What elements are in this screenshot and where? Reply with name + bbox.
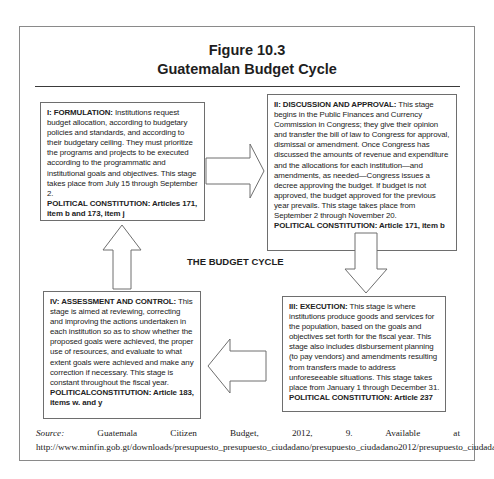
stage-constitution: POLITICAL CONSTITUTION: Articles 171, it… bbox=[47, 199, 197, 218]
stage-constitution: POLITICALCONSTITUTION: Article 183, item… bbox=[50, 388, 194, 407]
stage-heading: IV: ASSESSMENT AND CONTROL: bbox=[50, 297, 176, 306]
arrow-up-icon bbox=[102, 224, 142, 290]
stage-constitution: POLITICAL CONSTITUTION: Article 171, ite… bbox=[274, 221, 445, 230]
figure-number: Figure 10.3 bbox=[0, 42, 494, 58]
title-divider bbox=[35, 86, 460, 87]
source-citation: Source: Guatemala Citizen Budget, 2012, … bbox=[36, 426, 460, 454]
arrow-down-icon bbox=[344, 232, 388, 294]
stage-heading: I: FORMULATION: bbox=[47, 108, 113, 117]
stage-body: This stage is where institutions produce… bbox=[289, 302, 439, 392]
stage-heading: II: DISCUSSION AND APPROVAL: bbox=[274, 100, 396, 109]
source-label: Source: bbox=[36, 428, 64, 438]
stage-body: Institutions request budget allocation, … bbox=[47, 108, 198, 198]
stage-body: This stage begins in the Public Finances… bbox=[274, 100, 449, 220]
stage-execution-box: III: EXECUTION: This stage is where inst… bbox=[282, 296, 446, 412]
stage-discussion-approval-box: II: DISCUSSION AND APPROVAL: This stage … bbox=[267, 94, 457, 251]
arrow-left-icon bbox=[207, 338, 267, 394]
source-text: Guatemala Citizen Budget, 2012, 9. Avail… bbox=[36, 428, 494, 452]
figure-title: Guatemalan Budget Cycle bbox=[0, 61, 494, 77]
stage-assessment-control-box: IV: ASSESSMENT AND CONTROL: This stage i… bbox=[43, 291, 201, 419]
stage-body: This stage is aimed at reviewing, correc… bbox=[50, 297, 193, 387]
stage-heading: III: EXECUTION: bbox=[289, 302, 348, 311]
stage-formulation-box: I: FORMULATION: Institutions request bud… bbox=[40, 102, 205, 221]
stage-constitution: POLITICAL CONSTITUTION: Article 237 bbox=[289, 393, 433, 402]
budget-cycle-label: THE BUDGET CYCLE bbox=[187, 256, 284, 267]
arrow-right-icon bbox=[205, 142, 265, 202]
